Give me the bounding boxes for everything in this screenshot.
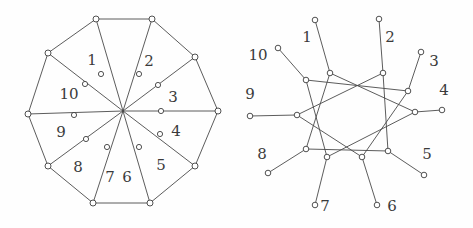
right-diagram-group: 12345678910 [245, 16, 449, 215]
leaf-vertex-6 [374, 202, 380, 208]
pendant-edge-6 [362, 157, 377, 205]
outer-vertex-10 [45, 50, 51, 56]
left-label-2: 2 [144, 52, 154, 70]
pendant-edge-1 [315, 20, 330, 73]
leaf-vertex-4 [439, 107, 445, 113]
inner-vertex-3 [405, 88, 411, 94]
inner-vertex-6 [359, 154, 365, 160]
spoke-node-6 [136, 144, 141, 149]
outer-vertex-9 [25, 111, 31, 117]
decagon-side-8 [28, 114, 48, 166]
decagon-side-3 [195, 57, 218, 111]
leaf-vertex-2 [376, 16, 382, 22]
pendant-edge-3 [408, 52, 421, 91]
right-label-1: 1 [302, 28, 312, 46]
outer-vertex-5 [192, 163, 198, 169]
left-label-6: 6 [122, 168, 132, 186]
left-labels: 12345678910 [56, 51, 181, 186]
leaf-vertex-10 [275, 45, 281, 51]
right-label-8: 8 [257, 145, 267, 163]
right-label-5: 5 [422, 145, 432, 163]
left-label-5: 5 [156, 156, 166, 174]
inner-vertex-9 [294, 112, 300, 118]
decagon-side-9 [28, 53, 48, 114]
star-chord-8 [306, 73, 330, 149]
leaf-vertex-9 [247, 113, 253, 119]
right-nodes [247, 16, 445, 208]
pendant-edge-4 [415, 110, 442, 112]
decagon-side-10 [48, 19, 96, 53]
leaf-vertex-7 [312, 202, 318, 208]
inner-vertex-8 [303, 146, 309, 152]
spoke-node-4 [158, 108, 163, 113]
outer-vertex-7 [90, 200, 96, 206]
spoke-node-7 [104, 144, 109, 149]
spoke-node-5 [157, 131, 162, 136]
outer-vertex-3 [192, 54, 198, 60]
leaf-vertex-1 [312, 17, 318, 23]
spoke-node-9 [71, 112, 76, 117]
spoke-node-8 [83, 136, 88, 141]
left-label-10: 10 [59, 85, 78, 103]
inner-vertex-7 [324, 154, 330, 160]
left-label-1: 1 [87, 51, 97, 69]
star-chord-10 [306, 80, 408, 91]
right-label-9: 9 [245, 85, 255, 103]
outer-vertex-2 [149, 16, 155, 22]
outer-vertex-8 [45, 163, 51, 169]
right-labels: 12345678910 [245, 28, 449, 215]
inner-vertex-2 [380, 70, 386, 76]
spoke-node-1 [98, 71, 103, 76]
leaf-vertex-5 [421, 172, 427, 178]
pendant-edge-10 [278, 48, 306, 80]
left-label-4: 4 [171, 122, 181, 140]
outer-vertex-6 [147, 200, 153, 206]
spoke-7 [93, 111, 123, 203]
pendant-edge-5 [388, 151, 424, 175]
left-label-3: 3 [168, 88, 178, 106]
leaf-vertex-3 [418, 49, 424, 55]
star-chord-2 [383, 73, 388, 151]
pendant-edge-2 [379, 19, 383, 73]
right-label-4: 4 [439, 81, 449, 99]
left-label-8: 8 [73, 158, 83, 176]
decagon-side-2 [152, 19, 195, 57]
outer-vertex-1 [93, 16, 99, 22]
left-label-9: 9 [56, 123, 66, 141]
star-chord-5 [306, 149, 388, 151]
decagon-side-4 [195, 111, 218, 166]
right-label-6: 6 [387, 197, 397, 215]
left-diagram-group: 12345678910 [25, 16, 221, 206]
inner-vertex-5 [385, 148, 391, 154]
left-label-7: 7 [105, 168, 115, 186]
right-label-2: 2 [385, 28, 395, 46]
pendant-edge-8 [268, 149, 306, 173]
leaf-vertex-8 [265, 170, 271, 176]
inner-vertex-1 [327, 70, 333, 76]
graph-diagram-canvas: 12345678910 12345678910 [0, 0, 473, 228]
right-label-3: 3 [429, 52, 439, 70]
right-label-10: 10 [248, 46, 267, 64]
pendant-edge-9 [250, 115, 297, 116]
spoke-6 [123, 111, 150, 203]
outer-vertex-4 [215, 108, 221, 114]
spoke-node-3 [155, 82, 160, 87]
spoke-1 [96, 19, 123, 111]
diagram-page: 12345678910 12345678910 [0, 0, 473, 228]
decagon-side-7 [48, 166, 93, 203]
inner-vertex-4 [412, 109, 418, 115]
spoke-node-10 [82, 81, 87, 86]
spoke-node-2 [136, 71, 141, 76]
inner-vertex-10 [303, 77, 309, 83]
right-label-7: 7 [320, 197, 330, 215]
